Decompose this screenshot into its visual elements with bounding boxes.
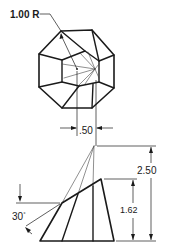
- angle-label: 30°: [12, 211, 26, 222]
- angle-value: 30: [12, 211, 23, 222]
- edge: [99, 82, 114, 88]
- arrowhead-left: [71, 126, 77, 130]
- arrowhead-bottom: [131, 234, 135, 240]
- front-view: [40, 146, 114, 241]
- arrowhead-bottom: [149, 234, 153, 240]
- radius-arrowhead: [60, 33, 64, 39]
- degree-symbol: °: [23, 211, 25, 217]
- radius-leader: [40, 14, 61, 31]
- arrowhead-top: [131, 180, 135, 186]
- edge: [39, 82, 62, 87]
- width-label: .50: [79, 126, 93, 136]
- radius-line: [61, 35, 77, 69]
- cut-height-label: 1.62: [120, 206, 138, 215]
- edge: [99, 55, 114, 61]
- height-dimension: [97, 146, 156, 241]
- angle-dimension: [16, 184, 60, 234]
- arrowhead-right: [96, 126, 102, 130]
- radius-label: 1.00 R: [10, 10, 39, 20]
- arrowhead-top: [18, 196, 22, 202]
- edge: [92, 84, 93, 108]
- edge: [39, 54, 62, 60]
- total-height-label: 2.50: [137, 166, 156, 176]
- top-view: [39, 14, 114, 108]
- arrowhead-top: [149, 147, 153, 153]
- edge: [61, 31, 85, 51]
- edge: [62, 86, 79, 108]
